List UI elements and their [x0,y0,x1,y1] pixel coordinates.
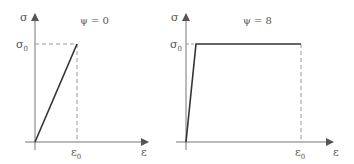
stress-strain-diagrams: σ ψ = 0 σ0 ε0 ε σ ψ = 8 σ0 ε0 ε [0,0,354,164]
left-curve [35,44,77,142]
right-y-axis-label: σ [171,11,179,24]
left-panel: σ ψ = 0 σ0 ε0 ε [16,11,148,161]
right-x-axis-label: ε [333,146,339,159]
right-panel: σ ψ = 8 σ0 ε0 ε [170,11,339,161]
left-eps0-label: ε0 [71,146,81,161]
left-x-axis-label: ε [141,146,147,159]
right-eps0-label: ε0 [295,146,305,161]
right-title: ψ = 8 [243,15,272,26]
left-sigma0-label: σ0 [16,38,28,53]
right-sigma0-label: σ0 [170,38,182,53]
left-y-axis-label: σ [20,11,28,24]
right-curve [186,44,301,142]
left-title: ψ = 0 [80,15,109,26]
